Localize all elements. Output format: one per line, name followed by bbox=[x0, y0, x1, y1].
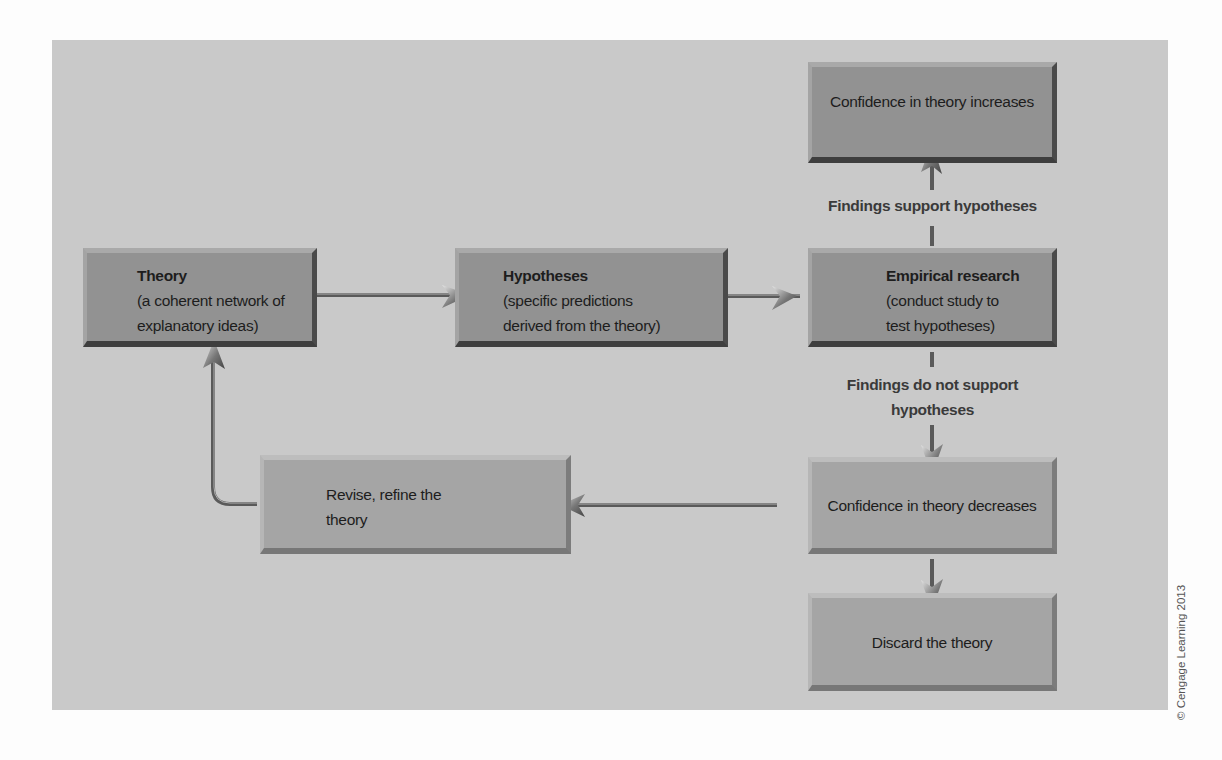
empirical-desc-line2: test hypotheses) bbox=[886, 313, 1019, 338]
empirical-desc-line1: (conduct study to bbox=[886, 288, 1019, 313]
confidence-decreases-box: Confidence in theory decreases bbox=[808, 457, 1057, 554]
findings-support-label: Findings support hypotheses bbox=[808, 193, 1057, 218]
findings-not-support-line1: Findings do not support bbox=[808, 372, 1057, 397]
confidence-decreases-text: Confidence in theory decreases bbox=[828, 497, 1037, 514]
empirical-research-box: Empirical research (conduct study to tes… bbox=[808, 248, 1057, 347]
findings-not-support-line2: hypotheses bbox=[808, 397, 1057, 422]
hypotheses-box: Hypotheses (specific predictions derived… bbox=[455, 248, 728, 347]
theory-title: Theory bbox=[137, 263, 285, 288]
discard-theory-box: Discard the theory bbox=[808, 593, 1057, 691]
empirical-title: Empirical research bbox=[886, 263, 1019, 288]
theory-desc-line2: explanatory ideas) bbox=[137, 313, 285, 338]
findings-not-support-label: Findings do not support hypotheses bbox=[808, 372, 1057, 422]
copyright-notice: © Cengage Learning 2013 bbox=[1175, 585, 1187, 720]
hypotheses-desc-line2: derived from the theory) bbox=[503, 313, 660, 338]
revise-line2: theory bbox=[326, 507, 441, 532]
theory-box: Theory (a coherent network of explanator… bbox=[83, 248, 317, 347]
confidence-increases-text: Confidence in theory increases bbox=[830, 93, 1034, 110]
confidence-increases-box: Confidence in theory increases bbox=[808, 62, 1057, 163]
hypotheses-desc-line1: (specific predictions bbox=[503, 288, 660, 313]
discard-text: Discard the theory bbox=[872, 633, 992, 650]
theory-desc-line1: (a coherent network of bbox=[137, 288, 285, 313]
revise-line1: Revise, refine the bbox=[326, 482, 441, 507]
findings-support-text: Findings support hypotheses bbox=[828, 197, 1037, 214]
revise-theory-box: Revise, refine the theory bbox=[260, 455, 571, 554]
hypotheses-title: Hypotheses bbox=[503, 263, 660, 288]
